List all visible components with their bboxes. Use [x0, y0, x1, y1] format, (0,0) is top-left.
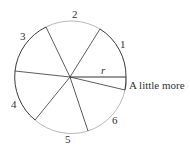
arc-label-6: 6	[112, 114, 118, 126]
radius-2-3	[46, 27, 70, 77]
radius-5-6	[70, 77, 88, 131]
arc-label-5: 5	[65, 133, 71, 145]
arc-label-2: 2	[72, 8, 78, 20]
remainder-label: A little more	[129, 79, 185, 91]
radius-remainder	[70, 77, 125, 90]
arc-5	[35, 120, 88, 133]
radius-1-2	[70, 29, 100, 77]
radius-label: r	[101, 64, 106, 76]
arc-6	[88, 90, 125, 131]
radius-4-5	[35, 77, 70, 120]
radian-circle-diagram: r 1 2 3 4 5 6 A little more	[0, 0, 190, 149]
arc-remainder	[125, 77, 126, 90]
arc-label-4: 4	[11, 98, 17, 110]
arc-4	[15, 71, 35, 120]
radius-3-4	[15, 71, 70, 77]
arc-label-3: 3	[20, 30, 26, 42]
arc-2	[46, 21, 100, 29]
arc-label-1: 1	[120, 38, 126, 50]
